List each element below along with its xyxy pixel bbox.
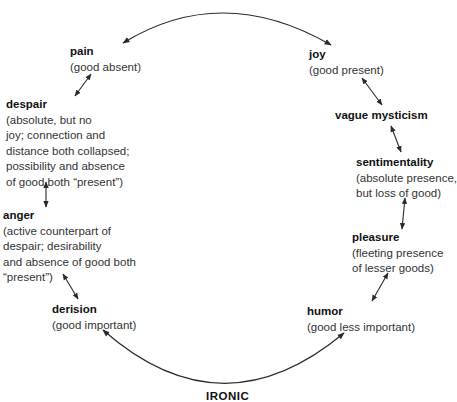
top-arc-arrow	[123, 13, 331, 45]
node-term: pleasure	[352, 230, 443, 246]
node-pleasure: pleasure (fleeting presence of lesser go…	[352, 230, 443, 277]
node-anger: anger (active counterpart of despair; de…	[3, 208, 136, 286]
node-desc: (active counterpart of	[3, 224, 136, 240]
node-desc: (good present)	[309, 63, 384, 79]
node-desc: possibility and absence	[6, 159, 129, 175]
node-term: derision	[52, 302, 136, 318]
node-desc: (good less important)	[307, 320, 415, 336]
node-term: humor	[307, 304, 415, 320]
node-desc: “present”)	[3, 270, 136, 286]
node-desc: and absence of good both	[3, 255, 136, 271]
node-vague-mysticism: vague mysticism	[335, 108, 428, 124]
node-term: pain	[70, 44, 141, 60]
node-term: sentimentality	[356, 155, 457, 171]
sentimentality-pleasure-arrow	[402, 198, 405, 229]
node-desc: but loss of good)	[356, 186, 457, 202]
node-term: joy	[309, 47, 384, 63]
node-term: vague mysticism	[335, 108, 428, 124]
node-desc: of lesser goods)	[352, 261, 443, 277]
node-desc: joy; connection and	[6, 128, 129, 144]
node-joy: joy (good present)	[309, 47, 384, 78]
node-desc: distance both collapsed;	[6, 144, 129, 160]
node-pain: pain (good absent)	[70, 44, 141, 75]
node-desc: (fleeting presence	[352, 246, 443, 262]
mysticism-sentimentality-arrow	[391, 126, 401, 152]
node-derision: derision (good important)	[52, 302, 136, 333]
pain-despair-arrow	[75, 74, 91, 96]
bottom-arc-arrow	[103, 330, 344, 383]
node-desc: of good both “present”)	[6, 175, 129, 191]
node-sentimentality: sentimentality (absolute presence, but l…	[356, 155, 457, 202]
ironic-label: IRONIC	[206, 390, 249, 402]
node-desc: (good absent)	[70, 60, 141, 76]
node-desc: (absolute, but no	[6, 113, 129, 129]
pleasure-humor-arrow	[372, 273, 388, 301]
node-despair: despair (absolute, but no joy; connectio…	[6, 97, 129, 190]
node-humor: humor (good less important)	[307, 304, 415, 335]
node-desc: (good important)	[52, 318, 136, 334]
node-term: anger	[3, 208, 136, 224]
node-term: despair	[6, 97, 129, 113]
joy-mysticism-arrow	[362, 78, 382, 105]
node-desc: despair; desirability	[3, 239, 136, 255]
node-desc: (absolute presence,	[356, 171, 457, 187]
